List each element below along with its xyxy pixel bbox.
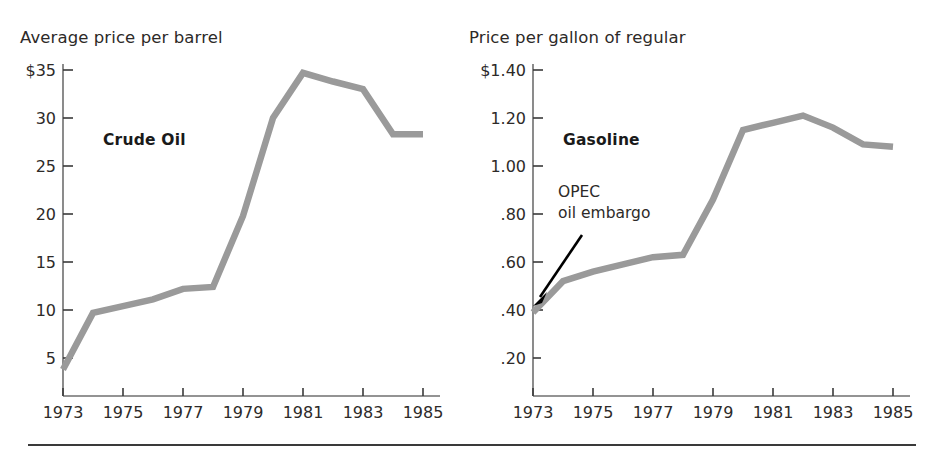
- x-tick-label: 1985: [873, 403, 914, 422]
- y-tick-label: $35: [25, 61, 56, 80]
- y-tick-label: .20: [501, 349, 526, 368]
- x-tick-label: 1977: [163, 403, 204, 422]
- x-tick-label: 1975: [103, 403, 144, 422]
- y-tick-label: .80: [501, 205, 526, 224]
- y-tick-label: 5: [46, 349, 56, 368]
- data-line-gasoline: [533, 116, 893, 313]
- chart-panel-gasoline: Price per gallon of regular Gasoline OPE…: [460, 0, 929, 440]
- y-tick-label: 15: [36, 253, 56, 272]
- bottom-divider-rule: [28, 444, 916, 446]
- x-tick-label: 1979: [223, 403, 264, 422]
- x-tick-label: 1975: [573, 403, 614, 422]
- y-tick-label: 1.20: [490, 109, 526, 128]
- x-tick-label: 1985: [403, 403, 444, 422]
- y-tick-label: 20: [36, 205, 56, 224]
- x-tick-label: 1983: [813, 403, 854, 422]
- y-tick-label: .40: [501, 301, 526, 320]
- x-tick-label: 1983: [343, 403, 384, 422]
- y-tick-label: 25: [36, 157, 56, 176]
- x-tick-label: 1973: [513, 403, 554, 422]
- x-tick-label: 1979: [693, 403, 734, 422]
- x-tick-label: 1981: [283, 403, 324, 422]
- plot-area-crude-oil: $35 30 25 20 15 10 5 1973 1975 1977 1979…: [0, 0, 469, 440]
- y-tick-label: 10: [36, 301, 56, 320]
- chart-panel-crude-oil: Average price per barrel Crude Oil $35 3…: [0, 0, 469, 440]
- data-line-crude-oil: [63, 73, 423, 370]
- plot-area-gasoline: $1.40 1.20 1.00 .80 .60 .40 .20 1973 197…: [460, 0, 929, 440]
- two-panel-line-chart-figure: Average price per barrel Crude Oil $35 3…: [0, 0, 938, 455]
- x-tick-label: 1973: [43, 403, 84, 422]
- y-tick-label: 1.00: [490, 157, 526, 176]
- x-tick-label: 1977: [633, 403, 674, 422]
- y-tick-label: $1.40: [480, 61, 526, 80]
- y-tick-label: 30: [36, 109, 56, 128]
- y-tick-label: .60: [501, 253, 526, 272]
- x-tick-label: 1981: [753, 403, 794, 422]
